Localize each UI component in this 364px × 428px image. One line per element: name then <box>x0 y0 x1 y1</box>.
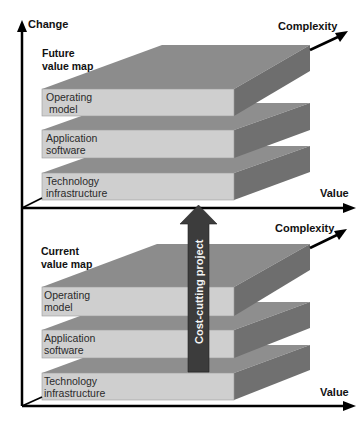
value-axis-label-top: Value <box>320 187 349 199</box>
current-map-title: Current <box>41 245 79 257</box>
value-axis-arrowhead-bottom-icon <box>343 401 356 411</box>
future-value-map: Operating model Application software Tec… <box>42 45 310 200</box>
current-map-title-2: value map <box>41 258 92 270</box>
value-map-diagram: Operating model Application software Tec… <box>0 0 364 428</box>
current-value-map: Operating model Application software Tec… <box>41 244 310 400</box>
future-map-title-2: value map <box>42 60 93 72</box>
current-layer-application-label: Application <box>44 332 96 344</box>
future-layer-application-label-2: software <box>46 144 86 156</box>
future-layer-application-label: Application <box>46 132 98 144</box>
cost-cutting-label: Cost-cutting project <box>193 239 205 344</box>
complexity-axis-arrowhead-bottom-icon <box>334 229 347 240</box>
complexity-axis-label-bottom: Complexity <box>275 222 335 234</box>
future-layer-operating-label: Operating <box>46 91 92 103</box>
change-axis-label: Change <box>28 18 68 30</box>
complexity-axis-label-top: Complexity <box>278 20 338 32</box>
value-axis-arrowhead-icon <box>343 203 356 213</box>
current-layer-technology-label: Technology <box>44 375 98 387</box>
current-layer-application-label-2: software <box>44 344 84 356</box>
current-layer-operating-label: Operating <box>44 289 90 301</box>
current-layer-technology-label-2: infrastructure <box>44 387 105 399</box>
value-axis-label-bottom: Value <box>320 386 349 398</box>
future-map-title: Future <box>42 47 75 59</box>
change-axis-arrowhead-icon <box>17 20 27 32</box>
future-layer-technology-label-2: infrastructure <box>46 187 107 199</box>
future-layer-technology-label: Technology <box>46 175 100 187</box>
future-layer-operating-label-2: model <box>46 103 78 115</box>
complexity-axis-arrowhead-icon <box>335 31 348 42</box>
current-layer-operating-label-2: model <box>44 301 73 313</box>
